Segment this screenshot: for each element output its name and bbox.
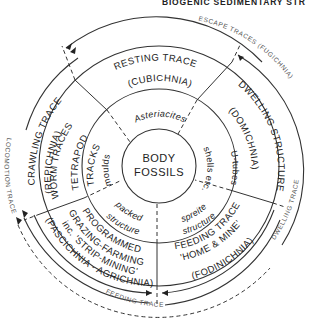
locomotion-trace-label: LOCOMOTION TRACE <box>4 137 19 214</box>
svg-text:FEEDING TRACE: FEEDING TRACE <box>105 287 164 308</box>
feeding-trace-outer-label: FEEDING TRACE <box>105 287 164 308</box>
shells-label: shells etc. <box>200 145 216 194</box>
divider-crawling-resting <box>75 80 107 110</box>
dash-tick-escape-right <box>232 45 240 62</box>
moulds-label: moulds <box>100 153 113 188</box>
svg-text:moulds: moulds <box>100 153 113 188</box>
arrow-feeding-right-icon <box>162 290 168 296</box>
arrow-dashed-icon <box>16 217 22 225</box>
body-label: BODY <box>142 152 175 164</box>
svg-text:TRACKS: TRACKS <box>84 142 102 187</box>
repichnia-label: (REPICHNIA) <box>42 128 63 194</box>
ethological-classification-diagram: BODY FOSSILS moulds shells etc. packed s… <box>0 0 316 325</box>
arrow-locomotion-icon <box>70 47 76 54</box>
svg-text:U-tubes: U-tubes <box>229 150 241 187</box>
svg-text:LOCOMOTION TRACE: LOCOMOTION TRACE <box>4 137 19 214</box>
svg-text:(REPICHNIA): (REPICHNIA) <box>42 128 63 194</box>
u-tubes-label: U-tubes <box>229 150 241 187</box>
dash-tick-dwelling <box>273 203 285 207</box>
svg-text:shells etc.: shells etc. <box>200 145 216 194</box>
fossils-label: FOSSILS <box>134 166 184 178</box>
arrow-locomotion-lower-icon <box>22 210 28 218</box>
svg-text:Asteriacites: Asteriacites <box>131 109 187 125</box>
tracks-label: TRACKS <box>84 142 102 187</box>
arrow-escape-left-icon <box>66 43 72 50</box>
divider-resting-dwelling <box>197 62 232 100</box>
dash-divider-1 <box>107 110 130 142</box>
divider-dwelling-feeding <box>230 190 273 203</box>
arrow-feeding-left-icon <box>146 290 152 296</box>
svg-text:RESTING TRACE: RESTING TRACE <box>112 51 199 71</box>
asteriacites-label: Asteriacites <box>131 109 187 125</box>
cubichnia-label: (CUBICHNIA) <box>126 72 194 89</box>
locomotion-arc-upper <box>26 58 78 130</box>
svg-text:(CUBICHNIA): (CUBICHNIA) <box>126 72 194 89</box>
resting-trace-label: RESTING TRACE <box>112 51 199 71</box>
